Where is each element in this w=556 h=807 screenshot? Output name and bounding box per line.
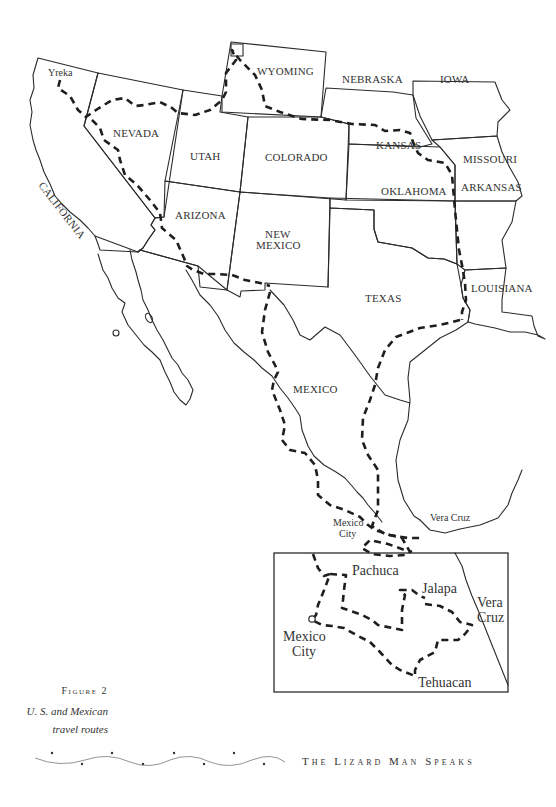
label-colorado: COLORADO <box>265 152 328 163</box>
california-border <box>30 58 155 252</box>
label-texas: TEXAS <box>365 293 401 304</box>
texas-border <box>328 208 470 520</box>
label-mexico-city-line2: City <box>339 529 356 540</box>
mexico-west-coast <box>186 270 382 522</box>
travel-route-mexico-west <box>262 292 420 538</box>
label-oklahoma: OKLAHOMA <box>381 186 447 197</box>
label-arizona: ARIZONA <box>175 210 226 221</box>
inset-mexico-city-marker <box>309 616 315 622</box>
label-yreka: Yreka <box>48 68 72 79</box>
figure-caption-line1: U. S. and Mexican <box>26 702 108 720</box>
wyoming-border <box>222 42 326 117</box>
figure-caption-line2: travel routes <box>26 720 108 738</box>
running-head: The Lizard Man Speaks <box>302 755 475 767</box>
inset-label-pachuca: Pachuca <box>352 564 399 579</box>
us-mexico-border-west <box>95 236 227 290</box>
label-vera-cruz: Vera Cruz <box>430 513 470 524</box>
label-wyoming: WYOMING <box>257 66 314 77</box>
ornament-dots <box>51 752 265 765</box>
inset-route-south <box>415 604 472 676</box>
inset-label-mexico-city-line1: Mexico <box>283 630 326 645</box>
figure-label: Figure 2 <box>62 685 108 696</box>
inset-route-pachuca-loop <box>330 574 425 630</box>
label-nebraska: NEBRASKA <box>342 74 403 85</box>
label-missouri: MISSOURI <box>463 154 517 165</box>
label-nevada: NEVADA <box>113 128 159 139</box>
louisiana-border <box>461 268 545 339</box>
baja-california-outline <box>98 250 193 405</box>
inset-label-mexico-city-line2: City <box>292 645 316 660</box>
label-mexico: MEXICO <box>293 384 338 395</box>
inset-label-jalapa: Jalapa <box>422 582 457 597</box>
inset-label-tehuacan: Tehuacan <box>418 676 471 691</box>
label-louisiana: LOUISIANA <box>471 283 533 294</box>
nevada-border <box>84 73 183 218</box>
label-new-mexico-line2: MEXICO <box>256 240 301 251</box>
figure-caption: U. S. and Mexican travel routes <box>26 702 108 738</box>
utah-border <box>165 90 248 192</box>
gulf-coast-south <box>420 470 522 533</box>
inset-label-vera-cruz-line1: Vera <box>477 596 503 611</box>
inset-label-vera-cruz-line2: Cruz <box>477 611 504 626</box>
oklahoma-border <box>330 198 457 264</box>
tiburon-island <box>144 312 154 324</box>
label-mexico-city-line1: Mexico <box>333 518 364 529</box>
label-kansas: KANSAS <box>376 140 421 151</box>
ornament-wave <box>35 756 285 765</box>
label-arkansas: ARKANSAS <box>461 182 522 193</box>
cedros-island <box>113 330 119 336</box>
iowa-border <box>413 81 510 140</box>
label-iowa: IOWA <box>440 74 470 85</box>
label-utah: UTAH <box>190 151 220 162</box>
arkansas-border <box>455 201 516 270</box>
